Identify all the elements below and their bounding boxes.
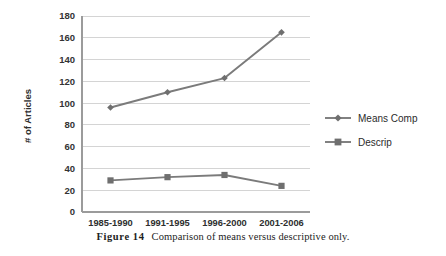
y-tick-label: 60	[64, 141, 75, 152]
series-line-descrip	[111, 175, 282, 186]
y-tick-label: 120	[59, 76, 75, 87]
y-tick-labels-group: 020406080100120140160180	[59, 10, 75, 217]
x-category-label: 1996-2000	[202, 218, 246, 227]
line-chart-svg: 020406080100120140160180 1985-19901991-1…	[0, 0, 446, 226]
x-category-labels-group: 1985-19901991-19951996-20002001-2006	[88, 218, 303, 227]
data-point-marker	[164, 89, 171, 96]
series-line-means-comp	[111, 32, 282, 107]
y-tick-label: 180	[59, 10, 75, 21]
figure-number: Figure 14	[96, 231, 144, 242]
legend-label-descrip: Descrip	[358, 137, 392, 148]
chart-plot-area: 020406080100120140160180 1985-19901991-1…	[0, 0, 446, 226]
data-point-marker	[107, 177, 113, 183]
y-axis-title: # of Articles	[22, 89, 33, 143]
x-category-label: 1991-1995	[145, 218, 189, 227]
figure-caption: Figure 14Comparison of means versus desc…	[0, 231, 446, 242]
x-category-label: 2001-2006	[259, 218, 303, 227]
x-category-label: 1985-1990	[88, 218, 132, 227]
y-tick-label: 40	[64, 163, 75, 174]
y-tick-label: 80	[64, 119, 75, 130]
figure-container: 020406080100120140160180 1985-19901991-1…	[0, 0, 446, 256]
figure-caption-text: Comparison of means versus descriptive o…	[152, 231, 350, 242]
chart-legend: Means CompDescrip	[325, 113, 418, 148]
legend-label-means-comp: Means Comp	[358, 113, 418, 124]
y-tick-label: 0	[70, 206, 75, 217]
data-point-marker	[221, 172, 227, 178]
y-tick-label: 20	[64, 185, 75, 196]
data-point-marker	[164, 174, 170, 180]
gridlines-group	[82, 16, 310, 190]
data-point-marker	[278, 183, 284, 189]
series-group	[107, 29, 285, 189]
data-point-marker	[107, 104, 114, 111]
y-tick-label: 160	[59, 32, 75, 43]
y-tick-label: 100	[59, 98, 75, 109]
y-tick-label: 140	[59, 54, 75, 65]
legend-swatch-marker	[334, 114, 341, 121]
legend-swatch-marker	[335, 139, 342, 146]
